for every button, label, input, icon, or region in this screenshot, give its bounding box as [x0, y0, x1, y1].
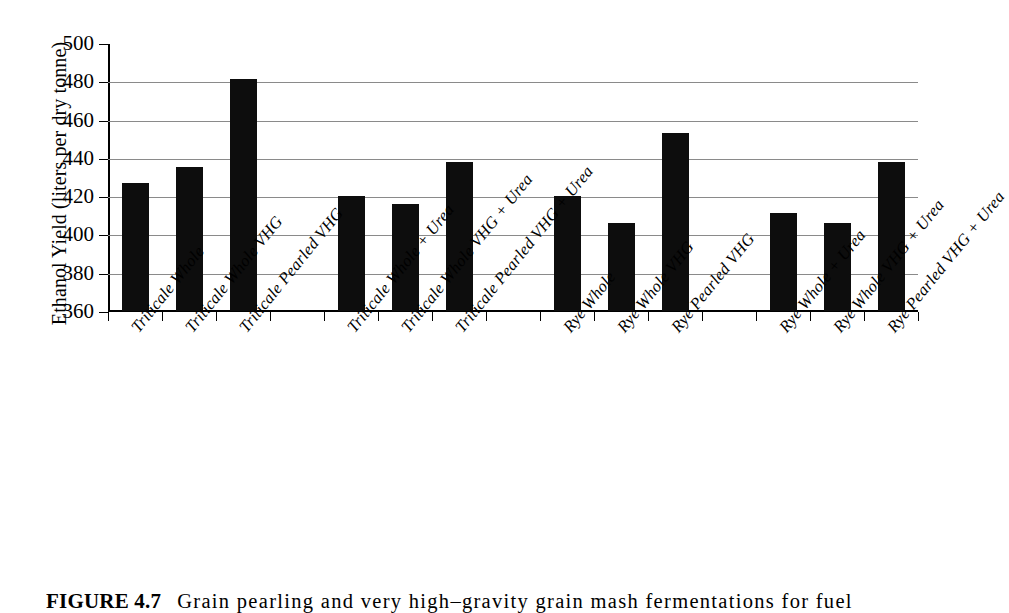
x-axis-tick [864, 312, 865, 321]
figure-caption: FIGURE 4.7Grain pearling and very high–g… [46, 588, 926, 613]
bar [122, 183, 149, 311]
figure-caption-text: Grain pearling and very high–gravity gra… [177, 590, 853, 612]
y-axis-tick-label: 400 [34, 222, 94, 247]
bar [608, 223, 635, 311]
y-axis-tick-label: 360 [34, 299, 94, 324]
x-axis-tick [108, 312, 109, 321]
x-axis-tick [648, 312, 649, 321]
y-axis-tick [99, 159, 108, 160]
x-axis-tick [810, 312, 811, 321]
y-axis-tick-label: 440 [34, 146, 94, 171]
y-axis-line [108, 44, 110, 312]
x-axis-tick [216, 312, 217, 321]
y-axis-tick-label: 460 [34, 108, 94, 133]
x-axis-tick [432, 312, 433, 321]
y-axis-tick-label: 420 [34, 184, 94, 209]
y-axis-tick-label: 380 [34, 261, 94, 286]
x-axis-tick [540, 312, 541, 321]
x-axis-tick [486, 312, 487, 321]
y-axis-tick [99, 312, 108, 313]
x-axis-tick [702, 312, 703, 321]
x-axis-tick [324, 312, 325, 321]
x-axis-tick [918, 312, 919, 321]
y-axis-tick-label: 480 [34, 69, 94, 94]
y-axis-tick-label: 500 [34, 31, 94, 56]
y-axis-tick [99, 121, 108, 122]
y-axis-tick [99, 197, 108, 198]
figure-caption-label: FIGURE 4.7 [46, 589, 161, 613]
y-axis-tick [99, 235, 108, 236]
y-axis-tick [99, 82, 108, 83]
bar [770, 213, 797, 311]
x-axis-tick [378, 312, 379, 321]
x-axis-tick [756, 312, 757, 321]
y-axis-tick [99, 274, 108, 275]
x-axis-tick [270, 312, 271, 321]
x-axis-tick [162, 312, 163, 321]
x-axis-tick [594, 312, 595, 321]
y-axis-tick [99, 44, 108, 45]
